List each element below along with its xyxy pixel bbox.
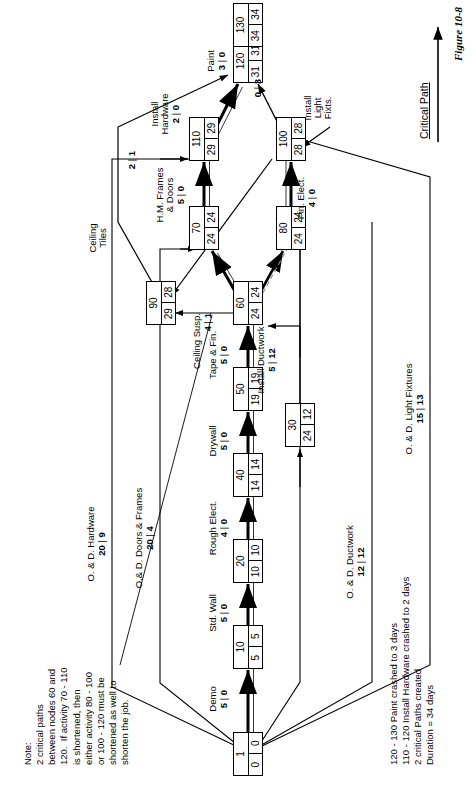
activity-name: Fin. Elect. <box>296 165 306 231</box>
activity-name: O. & D. Hardware <box>86 479 96 609</box>
activity-float: 4 <box>144 526 155 531</box>
activity-duration-float: 12 | 12 <box>356 497 366 627</box>
activity-duration: 15 <box>414 413 425 424</box>
activity-duration-float: 5 | 0 <box>219 323 229 387</box>
node-late: 14 <box>249 454 262 475</box>
activity-duration-float: 2 | 1 <box>127 131 137 189</box>
critical-path-legend-label: Critical Path <box>418 82 430 139</box>
activity-ceiling-tiles: Ceiling Tiles <box>88 209 108 267</box>
activity-duration-float: 3 | 0 <box>217 35 227 87</box>
activity-rough-elect: Rough Elect. 4 | 0 <box>208 495 229 561</box>
summary-text: 120 - 130 Paint crashed to 3 days 110 - … <box>388 577 437 765</box>
activity-name: O. & D. Ductwork <box>345 497 355 627</box>
activity-float: 0 <box>175 186 186 191</box>
node-id: 80 <box>277 207 292 249</box>
activity-duration-float: 5 | 0 <box>219 667 229 731</box>
node-late: 28 <box>162 282 175 303</box>
node-early: 29 <box>162 303 175 325</box>
node-110: 110 2929 <box>189 117 219 161</box>
activity-duration-float: 5 | 0 <box>176 159 186 231</box>
activity-float: 1 <box>202 313 213 318</box>
node-id: 1 <box>234 733 249 775</box>
activity-float: 12 <box>266 348 277 359</box>
activity-duration: 4 <box>306 202 317 207</box>
activity-duration-float: 20 | 4 <box>145 459 155 617</box>
activity-duration-float: 4 | 0 <box>307 165 317 231</box>
diagram-canvas: 1 00 10 55 20 1010 30 2412 40 1414 50 19… <box>0 0 476 787</box>
node-id: 10 <box>234 626 249 668</box>
activity-duration-float: 4 | 0 <box>219 495 229 561</box>
activity-float: 0 <box>218 432 229 437</box>
node-40: 40 1414 <box>233 453 263 497</box>
activity-float: 0 <box>218 346 229 351</box>
activity-install-hardware: Install Hardware 2 | 0 <box>150 81 181 147</box>
node-10: 10 55 <box>233 625 263 669</box>
node-100: 100 2828 <box>276 117 306 161</box>
node-id: 90 <box>147 282 162 324</box>
activity-float: 1 <box>126 151 137 156</box>
node-90: 90 2928 <box>146 281 176 325</box>
node-early: 24 <box>205 228 218 250</box>
node-id: 130 <box>234 4 249 46</box>
activity-od-light-fixtures: O. & D. Light Fixtures 15 | 13 <box>404 331 425 487</box>
activity-install-light-fixts: Install Light Fixts. <box>303 77 333 139</box>
activity-name: Ceiling Tiles <box>88 209 108 267</box>
activity-hm-frames-and-doors: H.M. Frames & Doors 5 | 0 <box>155 159 186 231</box>
node-late: 24 <box>205 207 218 228</box>
node-70: 70 2424 <box>189 206 219 250</box>
node-late: 10 <box>249 540 262 561</box>
activity-duration-float: 15 | 13 <box>415 331 425 487</box>
activity-duration-float: 5 | 0 <box>219 581 229 645</box>
activity-duration: 5 <box>218 445 229 450</box>
cpm-network-diagram: 1 00 10 55 20 1010 30 2412 40 1414 50 19… <box>0 0 476 787</box>
activity-ceiling-susp: Ceiling Susp. 4 | 1 <box>192 313 213 373</box>
activity-demo: Demo 5 | 0 <box>208 667 229 731</box>
activity-name: Drywall <box>208 409 218 473</box>
node-late: 12 <box>301 404 314 425</box>
activity-name: H.M. Frames & Doors <box>155 159 175 231</box>
node-early: 5 <box>249 647 262 669</box>
node-id: 50 <box>234 368 249 410</box>
activity-duration: 20 <box>96 545 107 556</box>
node-late: 5 <box>249 626 262 647</box>
activity-duration: 4 <box>202 326 213 331</box>
activity-name: Ceiling Susp. <box>192 313 202 373</box>
activity-name: O.& D. Doors & Frames <box>134 459 144 617</box>
activity-duration: 20 <box>144 539 155 550</box>
activity-float: 0 <box>216 52 227 57</box>
node-1: 1 00 <box>233 732 263 776</box>
activity-duration: 5 <box>266 367 277 372</box>
activity-install-light-fixts-duration: 0 | 3 <box>252 59 263 117</box>
node-early: 10 <box>249 561 262 583</box>
node-id: 20 <box>234 540 249 582</box>
activity-duration-float: 5 | 0 <box>219 409 229 473</box>
activity-float: 12 <box>355 548 366 559</box>
activity-duration: 5 <box>218 617 229 622</box>
node-late: 24 <box>249 282 262 303</box>
node-30: 30 2412 <box>285 403 315 447</box>
activity-ceiling-tiles-duration: 2 | 1 <box>126 131 137 189</box>
activity-name: Install Light Fixts. <box>303 77 333 139</box>
activity-od-ductwork: O. & D. Ductwork 12 | 12 <box>345 497 366 627</box>
activity-float: 13 <box>414 395 425 406</box>
activity-fin-elect: Fin. Elect. 4 | 0 <box>296 165 317 231</box>
activity-duration-float: 4 | 1 <box>203 313 213 373</box>
activity-paint: Paint 3 | 0 <box>206 35 227 87</box>
activity-float: 0 <box>170 105 181 110</box>
activity-name: Install Hardware <box>150 81 170 147</box>
node-id: 70 <box>190 207 205 249</box>
activity-duration: 5 <box>218 703 229 708</box>
activity-duration-float: 0 | 3 <box>253 59 263 117</box>
activity-duration-float: 2 | 0 <box>171 81 181 147</box>
node-early: 34 <box>249 25 262 47</box>
activity-duration: 2 <box>126 164 137 169</box>
activity-float: 0 <box>218 604 229 609</box>
activity-float: 0 <box>218 690 229 695</box>
node-id: 40 <box>234 454 249 496</box>
figure-caption: Figure 10-8 <box>452 7 464 61</box>
node-early: 24 <box>301 425 314 447</box>
activity-float: 3 <box>252 79 263 84</box>
activity-duration: 2 <box>170 118 181 123</box>
activity-std-wall: Std. Wall 5 | 0 <box>208 581 229 645</box>
activity-duration: 5 <box>218 359 229 364</box>
